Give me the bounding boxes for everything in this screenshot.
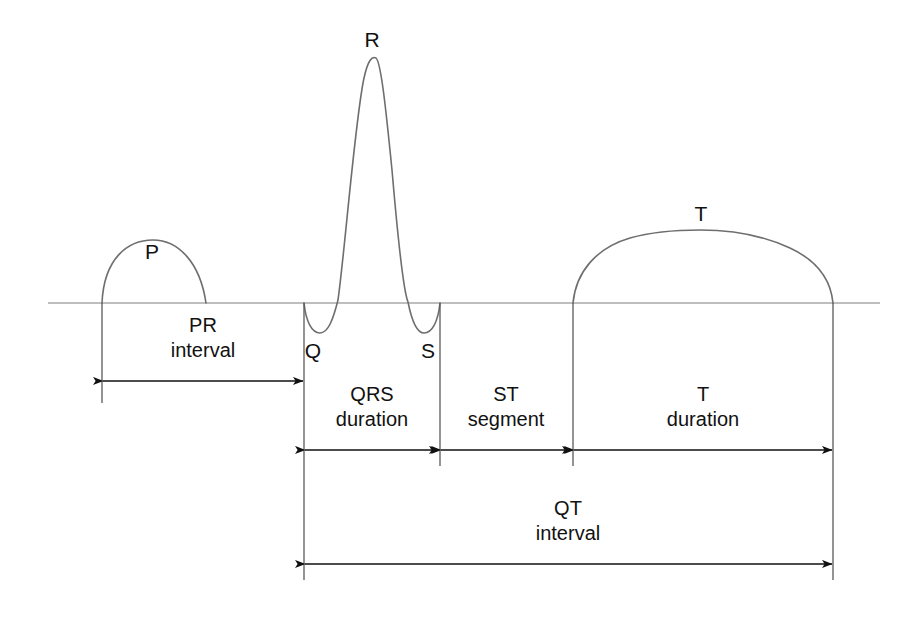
p-wave-label: P — [145, 240, 159, 263]
qrs-duration-label-line2: duration — [336, 408, 408, 430]
qt-interval-label-line2: interval — [536, 522, 600, 544]
qt-interval-label-line1: QT — [554, 497, 582, 519]
st-segment-label-line2: segment — [468, 408, 545, 430]
pr-interval-label-line1: PR — [189, 314, 217, 336]
pr-interval-label-line2: interval — [171, 339, 235, 361]
s-wave-label: S — [421, 339, 435, 362]
q-wave-label: Q — [305, 339, 321, 362]
ecg-diagram-canvas: P R Q S T PR interval QRS duration ST se… — [0, 0, 897, 622]
qrs-complex-trace — [304, 58, 440, 333]
ecg-diagram-figure: P R Q S T PR interval QRS duration ST se… — [0, 0, 897, 622]
t-wave-trace — [573, 230, 833, 303]
t-duration-label-line1: T — [697, 383, 709, 405]
r-wave-label: R — [364, 28, 379, 51]
t-duration-label-line2: duration — [667, 408, 739, 430]
qrs-duration-label-line1: QRS — [350, 383, 393, 405]
st-segment-label-line1: ST — [493, 383, 519, 405]
t-wave-label: T — [695, 202, 708, 225]
